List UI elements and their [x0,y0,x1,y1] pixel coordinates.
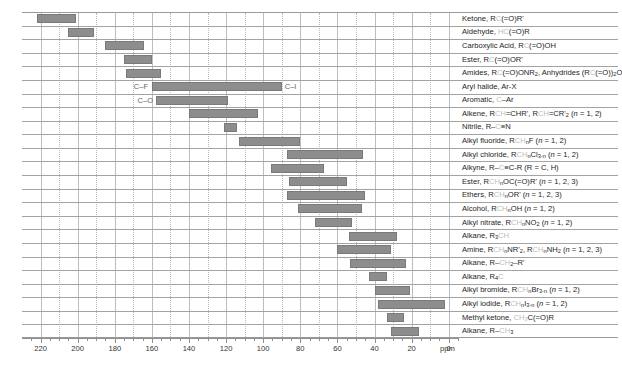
axis-tick [254,338,255,341]
axis-tick [282,338,283,341]
axis-tick [337,338,338,343]
axis-tick [78,338,79,343]
row-separator [22,229,618,230]
axis-tick [449,338,450,343]
row-label: Alkane, R–CH3 [462,326,513,337]
bond-annotation: C–F [134,82,148,91]
axis-tick [439,338,440,341]
row-label: Alcohol, RCHnOH (n = 1, 2) [462,204,555,215]
range-bar [287,191,365,200]
axis-tick [208,338,209,341]
axis-tick [328,338,329,341]
range-bar [315,218,352,227]
axis-tick [124,338,125,341]
axis-tick [393,338,394,341]
axis-tick [50,338,51,341]
axis-tick [170,338,171,341]
axis-tick [41,338,42,343]
range-bar [105,41,144,50]
axis-tick [143,338,144,341]
axis-tick-label: 80 [296,344,304,353]
row-label: Aryl halide, Ar-X [462,82,516,92]
row-separator [22,270,618,271]
axis-tick-label: 40 [370,344,378,353]
axis-tick [263,338,264,343]
axis-tick [365,338,366,341]
x-axis-unit-label: ppm [440,344,455,353]
range-bar [387,313,404,322]
range-bar [369,272,388,281]
row-label: Alkyl iodide, RCHnI3-n (n = 1, 2) [462,299,567,310]
axis-tick [421,338,422,341]
row-separator [22,80,618,81]
range-bar [224,123,237,132]
axis-tick [59,338,60,341]
row-label: Alkane, R3CH [462,231,509,242]
range-bar [391,327,419,336]
range-bar [375,286,410,295]
axis-tick-label: 100 [257,344,270,353]
range-bar [37,14,76,23]
range-bar [298,204,361,213]
range-bar [287,150,363,159]
row-label: Ketone, RC(=O)R' [462,14,524,24]
axis-tick-label: 140 [183,344,196,353]
row-label: Alkane, R–CH2–R' [462,258,524,269]
range-bar [289,177,347,186]
row-separator [22,53,618,54]
row-separator [22,121,618,122]
range-bar [189,109,258,118]
axis-tick [310,338,311,341]
axis-tick [235,338,236,341]
axis-tick [152,338,153,343]
axis-tick-label: 120 [220,344,233,353]
axis-tick [291,338,292,341]
row-label: Ester, RC(=O)OR' [462,55,523,65]
range-bar [378,300,445,309]
row-label: Alkyl bromide, RCHnBr3-n (n = 1, 2) [462,285,580,296]
row-separator [22,257,618,258]
axis-tick [96,338,97,341]
axis-tick [430,338,431,341]
axis-tick-label: 20 [407,344,415,353]
axis-tick [87,338,88,341]
axis-tick-label: 220 [34,344,47,353]
row-label: Alkane, R4C [462,272,504,283]
range-bar [156,96,228,105]
row-label: Alkene, RCH=CHR', RCH=CR'2 (n = 1, 2) [462,109,602,120]
row-separator [22,94,618,95]
row-label: Carboxylic Acid, RC(=O)OH [462,41,556,51]
axis-tick [31,338,32,341]
row-label: Methyl ketone, CH3C(=O)R [462,313,554,324]
row-label: Nitrile, R–C≡N [462,122,511,132]
axis-tick-label: 180 [108,344,121,353]
axis-tick [375,338,376,343]
axis-tick [226,338,227,343]
axis-tick [245,338,246,341]
axis-tick [115,338,116,343]
axis-tick [198,338,199,341]
axis-tick-label: 60 [333,344,341,353]
row-label: Amides, RC(=O)ONR2, Anhydrides (RC(=O))2… [462,68,622,79]
axis-tick [384,338,385,341]
row-label: Ethers, RCHnOR' (n = 1, 2, 3) [462,190,562,201]
axis-tick [217,338,218,341]
axis-tick-label: 200 [71,344,84,353]
range-bar [337,245,391,254]
axis-tick [161,338,162,341]
range-bar [152,82,282,91]
axis-tick [180,338,181,341]
row-label: Aromatic, C–Ar [462,95,514,105]
range-bar [350,259,406,268]
bond-annotation: C–I [285,82,297,91]
axis-tick [68,338,69,341]
row-label: Alkyl fluoride, RCHnF (n = 1, 2) [462,136,566,147]
axis-tick-label: 160 [146,344,159,353]
axis-tick [319,338,320,341]
row-label: Aldehyde, HC(=O)R [462,27,530,37]
row-label: Alkyne, R–C≡C-R (R = C, H) [462,163,559,173]
axis-tick [356,338,357,341]
range-bar [349,232,397,241]
row-label: Alkyl chloride, RCHnCl3-n (n = 1, 2) [462,150,579,161]
axis-tick [458,338,459,341]
